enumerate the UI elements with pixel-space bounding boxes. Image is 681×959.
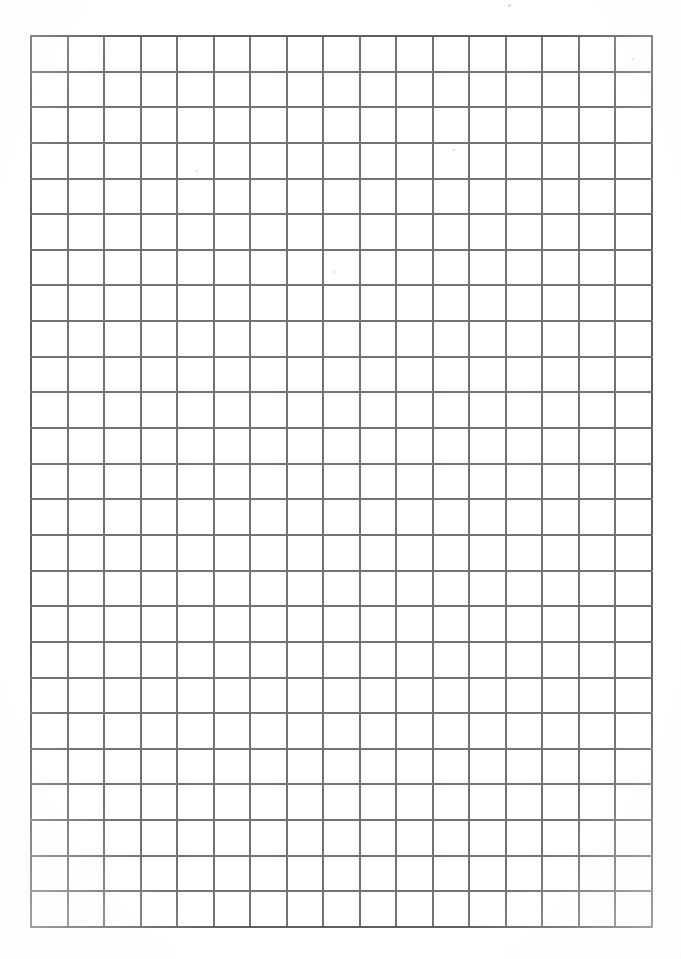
grid-line-vertical bbox=[140, 35, 142, 926]
grid-border-horizontal bbox=[30, 926, 653, 928]
grid-line-vertical bbox=[176, 35, 178, 926]
grid-line-horizontal bbox=[30, 712, 653, 714]
grid-line-vertical bbox=[468, 35, 470, 926]
grid-line-vertical bbox=[213, 35, 215, 926]
grid-line-horizontal bbox=[30, 641, 653, 643]
grid-line-horizontal bbox=[30, 391, 653, 393]
grid-line-vertical bbox=[286, 35, 288, 926]
grid-line-horizontal bbox=[30, 249, 653, 251]
grid-line-horizontal bbox=[30, 890, 653, 892]
grid-line-horizontal bbox=[30, 142, 653, 144]
grid-line-horizontal bbox=[30, 748, 653, 750]
grid-line-vertical bbox=[359, 35, 361, 926]
grid-line-vertical bbox=[395, 35, 397, 926]
grid-line-horizontal bbox=[30, 819, 653, 821]
grid-line-vertical bbox=[249, 35, 251, 926]
grid-line-horizontal bbox=[30, 106, 653, 108]
grid-line-horizontal bbox=[30, 783, 653, 785]
grid-line-horizontal bbox=[30, 320, 653, 322]
page-canvas bbox=[0, 0, 681, 959]
grid-line-vertical bbox=[578, 35, 580, 926]
grid-line-vertical bbox=[67, 35, 69, 926]
grid-line-vertical bbox=[505, 35, 507, 926]
grid-paper bbox=[30, 35, 651, 926]
grid-line-horizontal bbox=[30, 284, 653, 286]
grid-line-horizontal bbox=[30, 498, 653, 500]
grid-line-horizontal bbox=[30, 570, 653, 572]
grid-line-horizontal bbox=[30, 427, 653, 429]
grid-line-horizontal bbox=[30, 213, 653, 215]
grid-line-horizontal bbox=[30, 71, 653, 73]
grid-line-horizontal bbox=[30, 534, 653, 536]
grid-line-horizontal bbox=[30, 605, 653, 607]
grid-line-vertical bbox=[432, 35, 434, 926]
grid-border-horizontal bbox=[30, 35, 653, 37]
grid-line-vertical bbox=[322, 35, 324, 926]
grid-line-vertical bbox=[541, 35, 543, 926]
grid-line-vertical bbox=[614, 35, 616, 926]
grid-border-vertical bbox=[30, 35, 32, 926]
grid-line-vertical bbox=[103, 35, 105, 926]
grid-line-horizontal bbox=[30, 356, 653, 358]
grid-border-vertical bbox=[651, 35, 653, 926]
grid-line-horizontal bbox=[30, 855, 653, 857]
grid-line-horizontal bbox=[30, 677, 653, 679]
grid-line-horizontal bbox=[30, 178, 653, 180]
grid-line-horizontal bbox=[30, 463, 653, 465]
